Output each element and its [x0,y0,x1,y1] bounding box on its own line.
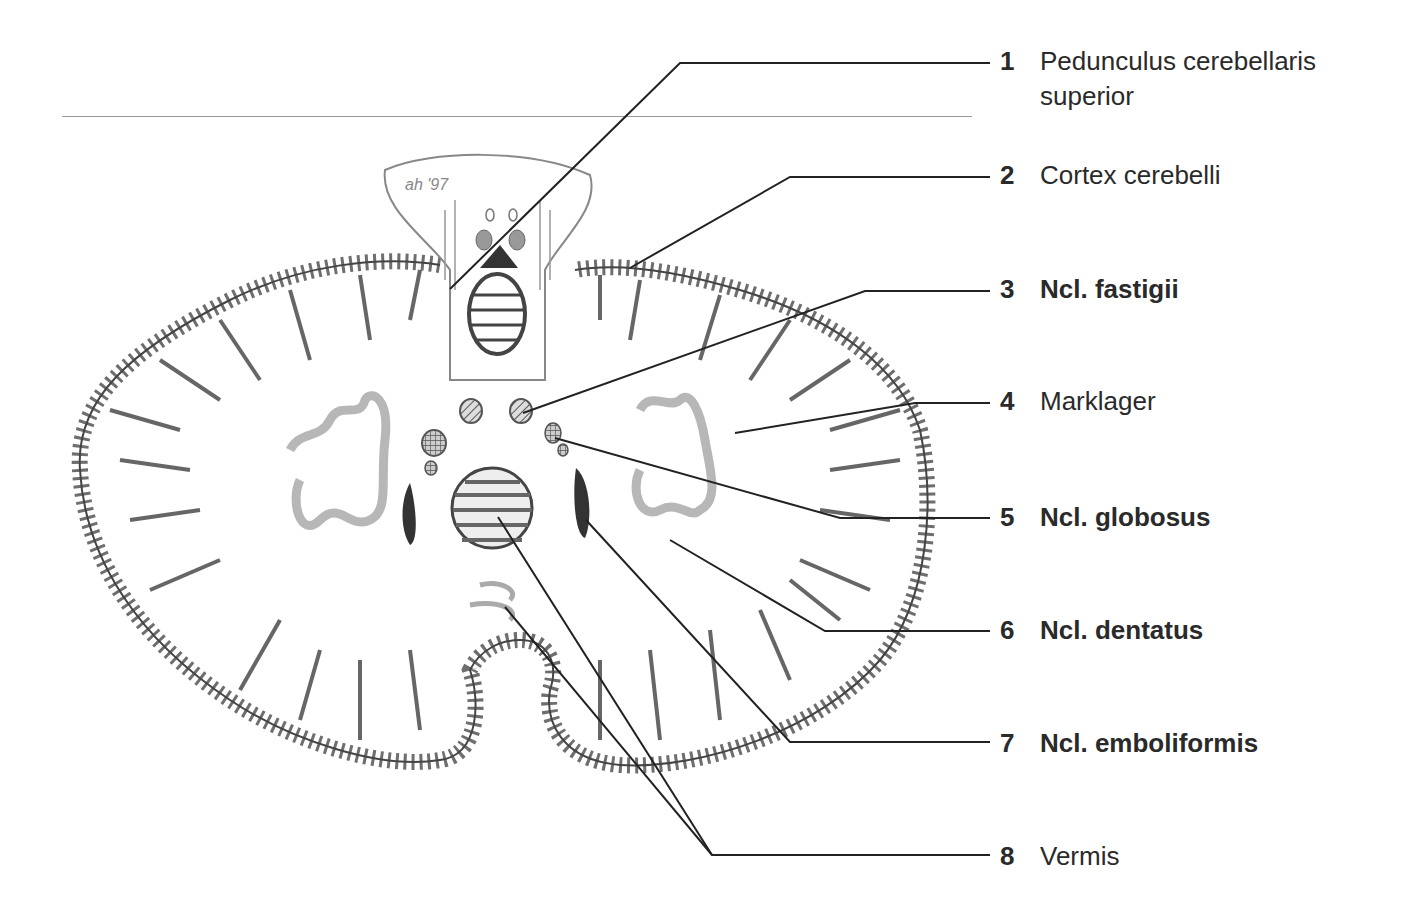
label-number: 2 [1000,158,1040,193]
label-5: 5Ncl. globosus [1000,500,1210,535]
label-7: 7Ncl. emboliformis [1000,726,1258,761]
label-8: 8Vermis [1000,839,1119,874]
label-3: 3Ncl. fastigii [1000,272,1179,307]
label-number: 4 [1000,384,1040,419]
label-text: Marklager [1040,384,1156,419]
label-6: 6Ncl. dentatus [1000,613,1203,648]
label-number: 3 [1000,272,1040,307]
label-number: 7 [1000,726,1040,761]
label-text-line1: Pedunculus cerebellaris [1040,46,1316,76]
label-number: 5 [1000,500,1040,535]
label-number: 1 [1000,44,1040,79]
label-text: Vermis [1040,839,1119,874]
signature: ah '97 [405,176,449,193]
label-text: Cortex cerebelli [1040,158,1221,193]
cerebellum-illustration: ah '97 [0,0,1404,924]
label-text: Ncl. fastigii [1040,272,1179,307]
label-text: Ncl. dentatus [1040,613,1203,648]
label-1: 1Pedunculus cerebellarissuperior [1000,44,1316,114]
label-number: 6 [1000,613,1040,648]
label-number: 8 [1000,839,1040,874]
label-text-line2: superior [1040,81,1134,111]
label-4: 4Marklager [1000,384,1156,419]
label-text: Ncl. emboliformis [1040,726,1258,761]
label-2: 2Cortex cerebelli [1000,158,1221,193]
label-text: Ncl. globosus [1040,500,1210,535]
